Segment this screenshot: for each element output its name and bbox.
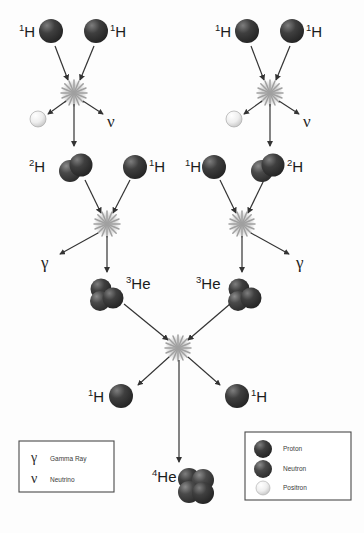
right-gamma-label: γ (295, 253, 304, 272)
neutrino-icon: ν (31, 471, 37, 486)
symbol-legend: γ Gamma Ray ν Neutrino (19, 441, 114, 492)
arrow-right-he3-to-final (188, 304, 230, 340)
arrow-left-to-gamma (60, 233, 98, 254)
final-h1-right: 1H (225, 384, 267, 408)
arrow-left-deuterium-to-fusion2 (85, 180, 101, 213)
left-gamma-label: γ (40, 253, 49, 272)
gamma-icon: γ (30, 450, 37, 465)
diagram-canvas: 1H 1H ν 2H (0, 0, 364, 533)
left-h1-a: 1H (19, 19, 63, 43)
pp-chain-diagram: 1H 1H ν 2H (0, 0, 364, 533)
right-h1-a: 1H (215, 19, 259, 43)
particle-legend: Proton Neutron Positron (245, 432, 351, 500)
arrow-final-to-h1-right (188, 357, 220, 385)
left-branch: 1H 1H ν 2H (19, 19, 165, 311)
arrow-right-deuterium-to-fusion2 (248, 180, 264, 213)
arrow-right-to-neutrino (279, 101, 299, 114)
final-h1-left: 1H (88, 384, 133, 408)
proton-icon (254, 440, 272, 458)
final-h1-left-label: 1H (88, 387, 104, 405)
positron-icon (256, 481, 270, 495)
arrow-left-to-positron (48, 101, 66, 114)
arrow-right-h1a-to-fusion1 (251, 46, 264, 80)
left-h1-c: 1H (123, 155, 165, 179)
right-h1-a-label: 1H (215, 22, 231, 40)
right-h1-b: 1H (280, 19, 322, 43)
right-deuterium: 2H (251, 154, 303, 183)
right-h1-c-label: 1H (185, 157, 201, 175)
right-h1-b-label: 1H (306, 22, 322, 40)
right-branch: 1H 1H ν 2H 1H (185, 19, 322, 311)
right-positron (226, 111, 242, 127)
right-neutrino-label: ν (303, 112, 311, 131)
final-fusion: 1H 1H 4He (88, 304, 267, 504)
symbol-legend-label-neutrino: Neutrino (50, 476, 75, 483)
final-h1-right-label: 1H (251, 387, 267, 405)
particle-legend-label-neutron: Neutron (283, 465, 307, 472)
arrow-left-h1c-to-fusion2 (113, 180, 130, 213)
left-he3-label: 3He (126, 274, 150, 292)
arrow-right-h1b-to-fusion1 (276, 46, 290, 80)
left-h1-c-label: 1H (149, 157, 165, 175)
arrow-left-h1a-to-fusion1 (55, 46, 68, 80)
left-h1-a-label: 1H (19, 22, 35, 40)
arrow-left-he3-to-final (124, 304, 168, 340)
symbol-legend-label-gamma: Gamma Ray (50, 455, 87, 463)
neutron-icon (254, 460, 272, 478)
right-h1-c: 1H (185, 155, 226, 179)
left-deuterium: 2H (29, 154, 93, 183)
left-h1-b: 1H (84, 19, 126, 43)
arrow-final-to-h1-left (138, 357, 169, 385)
left-h1-b-label: 1H (110, 22, 126, 40)
arrow-left-h1b-to-fusion1 (80, 46, 94, 80)
final-he4: 4He (152, 467, 214, 504)
right-deuterium-label: 2H (287, 157, 303, 175)
left-positron (30, 111, 46, 127)
arrow-right-to-gamma (251, 233, 289, 254)
left-he3: 3He (90, 274, 150, 311)
arrow-left-to-neutrino (83, 101, 103, 114)
left-neutrino-label: ν (107, 112, 115, 131)
right-he3-label: 3He (196, 274, 220, 292)
particle-legend-label-positron: Positron (283, 484, 307, 491)
final-he4-label: 4He (152, 467, 176, 485)
particle-legend-label-proton: Proton (283, 445, 303, 452)
arrow-right-h1c-to-fusion2 (220, 180, 236, 213)
left-deuterium-label: 2H (29, 157, 45, 175)
arrow-right-to-positron (244, 101, 262, 114)
